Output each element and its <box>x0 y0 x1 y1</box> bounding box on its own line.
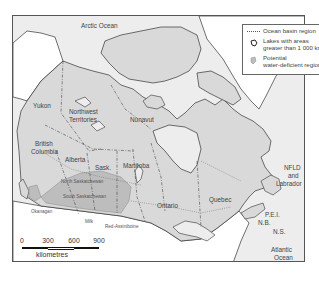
shaded-area-icon <box>245 55 263 63</box>
arctic-ocean-label: Arctic Ocean <box>81 22 118 29</box>
milk-label: Milk <box>85 219 93 224</box>
nwt-label-2: Territories <box>69 116 97 123</box>
red-assiniboine-label: Red-Assiniboine <box>105 224 138 229</box>
ontario-label: Ontario <box>157 202 178 209</box>
yukon-label: Yukon <box>33 102 51 109</box>
map-legend: Ocean basin region Lakes with areas grea… <box>242 24 319 75</box>
atlantic-label-2: Ocean <box>274 254 293 261</box>
nunavut-label: Nunavut <box>130 116 154 123</box>
legend-item-basin: Ocean basin region <box>245 28 316 36</box>
nfld-label-2: and <box>288 172 299 179</box>
legend-label: greater than 1 000 km² <box>263 45 319 52</box>
pei-label: P.E.I. <box>265 211 280 218</box>
ns-label: N.S. <box>273 228 285 235</box>
south-sask-label: South Saskatchewan <box>63 194 106 199</box>
quebec-label: Quebec <box>209 196 231 203</box>
legend-item-lakes: Lakes with areas greater than 1 000 km² <box>245 38 319 51</box>
scale-tick: 300 <box>42 237 53 244</box>
legend-label: Ocean basin region <box>263 28 316 35</box>
scale-tick: 600 <box>68 237 79 244</box>
nfld-label-1: NFLD <box>284 164 301 171</box>
manitoba-label: Manitoba <box>123 162 149 169</box>
atlantic-label-1: Atlantic <box>271 246 292 253</box>
north-sask-label: North Saskatchewan <box>61 179 103 184</box>
alberta-label: Alberta <box>65 156 85 163</box>
nfld-label-3: Labrador <box>276 180 302 187</box>
bc-label-2: Columbia <box>31 148 58 155</box>
legend-label: water-deficient regions <box>263 62 319 69</box>
nwt-label-1: Northwest <box>69 108 98 115</box>
scale-tick: 900 <box>93 237 104 244</box>
dotted-line-icon <box>245 28 263 36</box>
bc-label-1: British <box>35 140 53 147</box>
scale-bar: 0 300 600 900 kilometres <box>16 237 96 261</box>
legend-item-deficient: Potential water-deficient regions <box>245 55 319 68</box>
scale-unit: kilometres <box>36 251 68 258</box>
okanagan-label: Okanagan <box>31 209 52 214</box>
lake-outline-icon <box>245 38 263 46</box>
nb-label: N.B. <box>258 219 270 226</box>
sask-label: Sask. <box>95 164 111 171</box>
scale-tick: 0 <box>20 237 24 244</box>
